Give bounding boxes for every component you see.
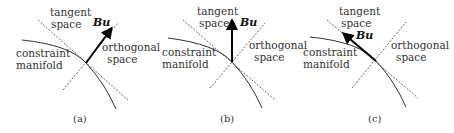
tangent-space-label-c-2: space [341, 18, 371, 29]
caption-a: (a) [73, 113, 87, 124]
tangent-space-label-b-2: space [199, 18, 229, 29]
bu-label-b: Bu [240, 16, 257, 29]
orthogonal-space-label-b-2: space [254, 52, 284, 63]
constraint-manifold-label-c: constraint [303, 47, 357, 58]
constraint-manifold-label-b: constraint [162, 47, 216, 58]
constraint-manifold-label-a: constraint [16, 48, 70, 59]
figure: tangent space Bu orthogonal space constr… [0, 0, 454, 133]
bu-label-a: Bu [93, 16, 110, 29]
orthogonal-space-label-a: orthogonal [102, 42, 160, 53]
tangent-space-label-c: tangent [339, 6, 380, 17]
constraint-manifold-label-a-2: manifold [16, 60, 63, 71]
orthogonal-space-label-a-2: space [107, 54, 137, 65]
caption-b: (b) [220, 113, 234, 124]
caption-c: (c) [368, 113, 381, 124]
orthogonal-space-label-b: orthogonal [249, 40, 307, 51]
tangent-space-label-a: tangent [50, 7, 91, 18]
constraint-manifold-label-b-2: manifold [162, 59, 209, 70]
constraint-manifold-label-c-2: manifold [303, 59, 350, 70]
orthogonal-space-label-c-2: space [396, 52, 426, 63]
tangent-space-label-b: tangent [197, 6, 238, 17]
bu-label-c: Bu [356, 29, 373, 42]
tangent-space-label-a-2: space [51, 19, 81, 30]
orthogonal-space-label-c: orthogonal [391, 40, 449, 51]
